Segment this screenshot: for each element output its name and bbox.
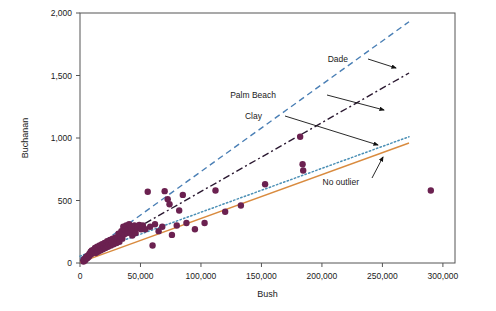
data-point [180,192,186,198]
y-axis-tick-label: 2,000 [51,8,73,18]
data-point [300,167,306,173]
annotation-arrow-no-outlier [372,157,383,178]
data-point [238,202,244,208]
data-point [262,181,268,187]
data-point [201,220,207,226]
data-point [159,224,165,230]
x-axis-tick-label: 250,000 [367,271,398,281]
data-point [166,201,172,207]
y-axis-title: Buchanan [20,118,30,159]
data-point [149,242,155,248]
x-axis-tick-label: 200,000 [307,271,338,281]
data-point [192,226,198,232]
annotation-arrow-dade [368,59,396,68]
data-point [428,187,434,193]
data-point [176,207,182,213]
data-point [212,187,218,193]
data-point [183,220,189,226]
annotation-label-no-outlier: No outlier [323,177,360,187]
y-axis-tick-label: 500 [58,196,72,206]
data-point [152,221,158,227]
annotation-arrow-clay [285,116,378,145]
annotation-label-clay: Clay [245,111,263,121]
data-point [145,189,151,195]
x-axis-tick-label: 50,000 [127,271,153,281]
x-axis-tick-label: 100,000 [186,271,217,281]
data-point [161,188,167,194]
scatter-plot-figure: 05001,0001,5002,000050,000100,000150,000… [0,0,496,311]
data-point [169,232,175,238]
y-axis-tick-label: 1,500 [51,71,73,81]
chart-canvas: 05001,0001,5002,000050,000100,000150,000… [0,0,496,311]
annotation-label-palm-beach: Palm Beach [230,90,276,100]
y-axis-tick-label: 0 [67,258,72,268]
annotation-arrow-palm-beach [327,95,384,110]
annotation-label-dade: Dade [328,54,349,64]
trend-line-clay [80,137,409,256]
x-axis-title: Bush [257,289,278,299]
data-point [222,209,228,215]
data-point [299,161,305,167]
data-point [174,222,180,228]
trend-line-no-outlier [80,143,409,262]
x-axis-tick-label: 0 [78,271,83,281]
data-point [297,134,303,140]
x-axis-tick-label: 300,000 [428,271,459,281]
x-axis-tick-label: 150,000 [246,271,277,281]
y-axis-tick-label: 1,000 [51,133,73,143]
